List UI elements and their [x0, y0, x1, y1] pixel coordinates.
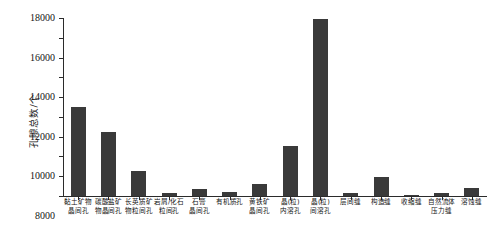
- bar: [464, 188, 479, 196]
- y-tick: 4000: [59, 156, 63, 157]
- x-axis-label-line: 压力缝: [423, 207, 459, 216]
- y-tick: 12000: [59, 77, 63, 78]
- x-axis-label-line: 间溶孔: [302, 207, 338, 216]
- bar: [313, 19, 328, 196]
- x-axis-label-line: 晶间孔: [181, 207, 217, 216]
- y-tick-label: 14000: [30, 92, 55, 102]
- bar: [222, 192, 237, 196]
- y-tick: 18000: [59, 18, 63, 19]
- y-tick-label: 16000: [30, 53, 55, 63]
- y-axis-line: [63, 18, 64, 196]
- y-tick-label: 12000: [30, 132, 55, 142]
- y-tick: 8000: [59, 117, 63, 118]
- plot-area: 0200040006000800010000120001400016000180…: [63, 18, 487, 196]
- y-tick: 16000: [59, 38, 63, 39]
- y-tick-label: 18000: [30, 13, 55, 23]
- y-tick-label: 10000: [30, 171, 55, 181]
- bar: [252, 184, 267, 196]
- bar: [404, 195, 419, 197]
- x-axis-labels: 黏土矿物晶间孔碳酸盐矿物晶间孔长英质矿物粒间孔岩屑/化石粒间孔石膏晶间孔有机质孔…: [63, 198, 487, 240]
- bar: [131, 171, 146, 196]
- bar-chart: 孔隙总数/个 020004000600080001000012000140001…: [0, 0, 498, 242]
- bar: [283, 146, 298, 196]
- y-tick: 6000: [59, 137, 63, 138]
- y-tick-label: 8000: [35, 211, 55, 221]
- bar: [101, 132, 116, 196]
- y-tick: 14000: [59, 58, 63, 59]
- y-tick: 10000: [59, 97, 63, 98]
- y-tick: 0: [59, 196, 63, 197]
- x-axis-label-line: 溶蚀缝: [454, 198, 490, 207]
- x-axis-label: 溶蚀缝: [454, 198, 490, 207]
- bar: [192, 189, 207, 196]
- bar: [434, 193, 449, 196]
- bar: [71, 107, 86, 196]
- x-axis-line: [63, 196, 487, 197]
- bar: [162, 193, 177, 196]
- bar: [343, 193, 358, 196]
- y-tick: 2000: [59, 176, 63, 177]
- bar: [374, 177, 389, 196]
